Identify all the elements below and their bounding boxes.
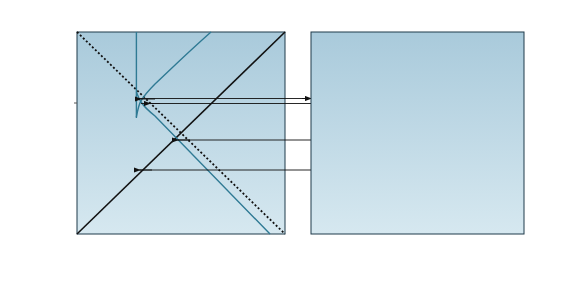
left-panel (74, 32, 285, 234)
right-panel (311, 32, 524, 234)
chart-canvas (0, 0, 564, 282)
titration-figure (0, 0, 564, 282)
